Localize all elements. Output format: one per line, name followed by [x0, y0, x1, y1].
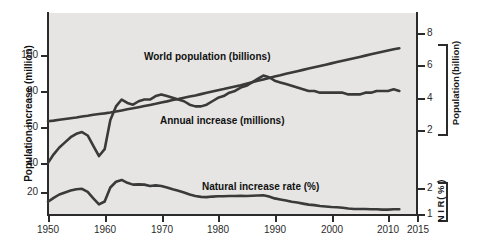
chart-figure: 100 80 60 40 20 Population increase (mil…	[0, 0, 480, 245]
annual-increase-label: Annual increase (millions)	[160, 115, 284, 126]
world-population-label: World population (billions)	[144, 51, 270, 62]
natural-increase-rate-label: Natural increase rate (%)	[202, 181, 319, 192]
